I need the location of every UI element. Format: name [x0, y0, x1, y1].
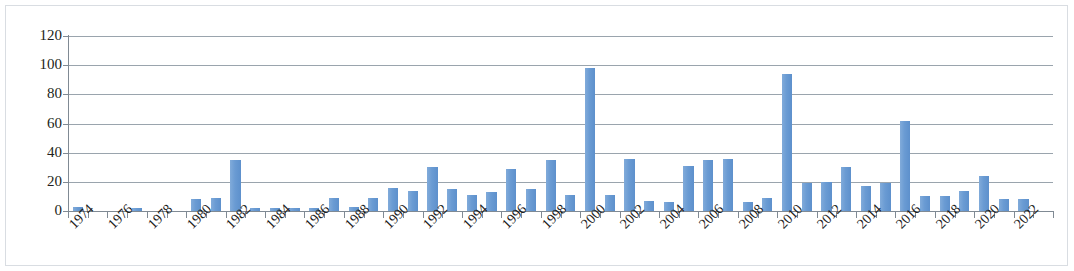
y-axis-tick-label: 0: [22, 203, 62, 218]
bar-chart-figure: 120100806040200 197419761978198019821984…: [0, 0, 1074, 271]
bar: [841, 167, 851, 211]
y-axis-tick-mark: [63, 94, 69, 95]
gridline: [68, 94, 1053, 95]
bar: [546, 160, 556, 211]
gridline: [68, 65, 1053, 66]
x-axis-tick-mark: [1053, 212, 1054, 218]
bar: [447, 189, 457, 211]
bar: [486, 192, 496, 211]
y-axis-tick-mark: [63, 153, 69, 154]
bar: [408, 191, 418, 211]
bar: [683, 166, 693, 211]
y-axis-tick-mark: [63, 36, 69, 37]
bar: [782, 74, 792, 211]
y-axis-tick-label: 40: [22, 145, 62, 160]
y-axis-tick-label: 120: [22, 28, 62, 43]
gridline: [68, 36, 1053, 37]
y-axis-tick-label: 60: [22, 116, 62, 131]
y-axis-tick-mark: [63, 65, 69, 66]
plot-area: [68, 36, 1053, 211]
y-axis-tick-mark: [63, 211, 69, 212]
bar: [880, 183, 890, 211]
y-axis-tick-label: 20: [22, 174, 62, 189]
bar: [585, 68, 595, 211]
bar: [723, 159, 733, 212]
y-axis-tick-mark: [63, 124, 69, 125]
y-axis-tick-mark: [63, 182, 69, 183]
y-axis-tick-label: 80: [22, 86, 62, 101]
bar: [900, 121, 910, 211]
bar: [959, 191, 969, 211]
y-axis-tick-label: 100: [22, 57, 62, 72]
y-axis-tick-labels: 120100806040200: [14, 0, 62, 271]
bar: [526, 189, 536, 211]
bar: [802, 183, 812, 211]
